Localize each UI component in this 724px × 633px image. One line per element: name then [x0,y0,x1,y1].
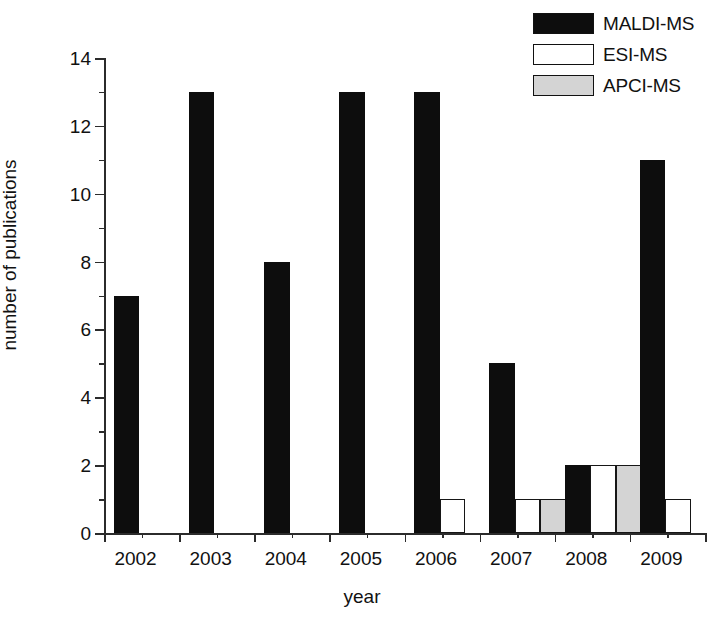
x-tick-minor [217,533,219,538]
bar-maldi-2009 [640,160,666,533]
bar-esi-2009 [665,499,691,533]
y-axis-line [104,58,106,533]
y-tick-minor [99,92,104,94]
legend-item-maldi[interactable]: MALDI-MS [533,8,718,39]
y-tick-label: 10 [70,184,91,203]
bar-apci-2007 [540,499,566,533]
x-tick-major [179,533,181,542]
x-tick-major [630,533,632,542]
y-tick-minor [99,160,104,162]
y-tick-major [95,194,104,196]
plot-area: 02468101214 2002200320042005200620072008… [104,58,705,533]
y-tick-major [95,465,104,467]
x-tick-label: 2006 [415,549,457,568]
bar-maldi-2003 [189,92,215,533]
x-tick-major [254,533,256,542]
y-tick-label: 14 [70,49,91,68]
y-tick-major [95,126,104,128]
bar-esi-2006 [440,499,466,533]
x-tick-label: 2003 [190,549,232,568]
x-tick-minor [292,533,294,538]
x-tick-label: 2004 [265,549,307,568]
y-tick-label: 8 [80,252,91,271]
x-tick-major [555,533,557,542]
x-tick-major [405,533,407,542]
x-tick-label: 2007 [490,549,532,568]
bar-maldi-2008 [565,465,591,533]
y-tick-label: 4 [80,388,91,407]
x-tick-minor [142,533,144,538]
x-tick-major [104,533,106,542]
y-tick-major [95,533,104,535]
bar-maldi-2005 [339,92,365,533]
x-tick-minor [367,533,369,538]
legend-item-label: MALDI-MS [603,14,694,33]
y-tick-label: 0 [80,524,91,543]
y-tick-label: 2 [80,456,91,475]
y-tick-label: 6 [80,320,91,339]
bar-maldi-2002 [114,296,140,534]
y-tick-minor [99,431,104,433]
bar-maldi-2004 [264,262,290,533]
bar-maldi-2006 [414,92,440,533]
x-tick-minor [592,533,594,538]
y-tick-label: 12 [70,116,91,135]
x-tick-major [480,533,482,542]
x-tick-label: 2009 [640,549,682,568]
x-tick-minor [442,533,444,538]
x-tick-major [329,533,331,542]
y-tick-minor [99,228,104,230]
bar-esi-2007 [515,499,541,533]
black-swatch-icon [533,13,594,34]
bar-maldi-2007 [489,363,515,533]
y-tick-minor [99,296,104,298]
y-tick-major [95,262,104,264]
y-tick-major [95,397,104,399]
x-tick-minor [667,533,669,538]
bar-esi-2008 [590,465,616,533]
y-tick-major [95,58,104,60]
x-tick-label: 2002 [114,549,156,568]
x-tick-label: 2008 [565,549,607,568]
x-tick-major [705,533,707,542]
bar-apci-2008 [616,465,642,533]
x-tick-minor [517,533,519,538]
publications-bar-chart-figure: MALDI-MSESI-MSAPCI-MS 02468101214 200220… [0,0,724,633]
y-tick-minor [99,499,104,501]
y-axis-title: number of publications [0,0,21,535]
y-tick-major [95,329,104,331]
x-tick-label: 2005 [340,549,382,568]
y-tick-minor [99,363,104,365]
x-axis-title: year [0,586,724,608]
